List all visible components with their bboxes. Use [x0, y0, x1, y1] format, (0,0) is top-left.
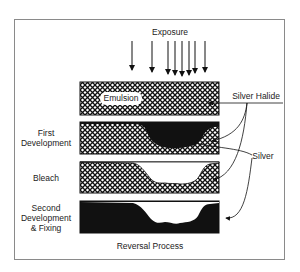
- exposure-label: Exposure: [145, 27, 195, 37]
- diagram-title: Reversal Process: [110, 241, 190, 251]
- silver-halide-label: Silver Halide: [226, 91, 286, 101]
- exposure-arrows: [132, 41, 205, 76]
- stage-label-second-development: SecondDevelopment& Fixing: [16, 203, 76, 233]
- second-development-panel: [80, 201, 219, 233]
- bleach-panel: [80, 162, 219, 193]
- stage-label-bleach: Bleach: [16, 173, 76, 183]
- emulsion-label: Emulsion: [100, 93, 142, 103]
- stage-label-first-development: FirstDevelopment: [16, 128, 76, 148]
- first-development-panel: [80, 122, 219, 154]
- silver-label: Silver: [248, 151, 278, 161]
